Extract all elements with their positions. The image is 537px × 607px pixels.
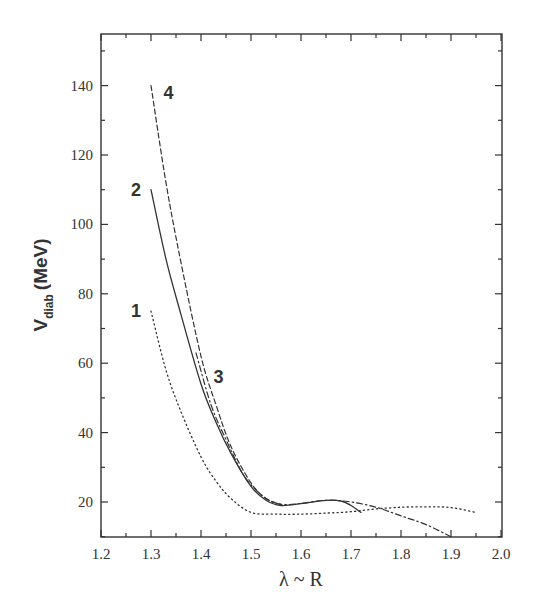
x-tick-label: 1.3 bbox=[142, 546, 161, 562]
curve-1 bbox=[151, 311, 476, 514]
y-tick-label: 100 bbox=[71, 216, 94, 232]
curve-label-2: 2 bbox=[131, 180, 141, 200]
axis-ticks bbox=[101, 34, 502, 537]
y-tick-label: 140 bbox=[71, 78, 94, 94]
plot-border bbox=[101, 34, 502, 537]
x-tick-label: 1.8 bbox=[392, 546, 411, 562]
x-tick-label: 1.7 bbox=[342, 546, 361, 562]
x-tick-label: 1.6 bbox=[292, 546, 311, 562]
x-tick-label: 1.4 bbox=[192, 546, 211, 562]
y-tick-label: 60 bbox=[78, 355, 93, 371]
x-tick-label: 2.0 bbox=[492, 546, 511, 562]
curve-label-1: 1 bbox=[131, 301, 141, 321]
x-tick-label: 1.5 bbox=[242, 546, 261, 562]
plot-frame bbox=[101, 34, 502, 537]
curves bbox=[151, 86, 476, 537]
y-tick-label: 120 bbox=[71, 147, 94, 163]
chart: 1.21.31.41.51.61.71.81.92.0 204060801001… bbox=[0, 0, 537, 607]
curve-labels: 1234 bbox=[131, 83, 224, 388]
svg-text:Vdiab(MeV): Vdiab(MeV) bbox=[30, 238, 56, 331]
x-tick-label: 1.2 bbox=[92, 546, 111, 562]
y-tick-label: 20 bbox=[78, 494, 93, 510]
y-tick-labels: 20406080100120140 bbox=[71, 78, 94, 510]
y-tick-label: 80 bbox=[78, 286, 93, 302]
curve-4 bbox=[151, 86, 281, 505]
y-axis-title-main: V bbox=[30, 319, 51, 332]
curve-2 bbox=[151, 190, 361, 513]
y-axis-title-unit: (MeV) bbox=[30, 238, 51, 290]
y-axis-title: Vdiab(MeV) bbox=[30, 238, 56, 331]
curve-3 bbox=[196, 353, 451, 537]
curve-label-3: 3 bbox=[213, 367, 223, 387]
x-axis-title: λ ~ R bbox=[279, 568, 324, 590]
y-axis-title-sub: diab bbox=[42, 294, 56, 319]
curve-label-4: 4 bbox=[163, 83, 173, 103]
y-tick-label: 40 bbox=[78, 425, 93, 441]
x-tick-labels: 1.21.31.41.51.61.71.81.92.0 bbox=[92, 546, 511, 562]
x-tick-label: 1.9 bbox=[442, 546, 461, 562]
